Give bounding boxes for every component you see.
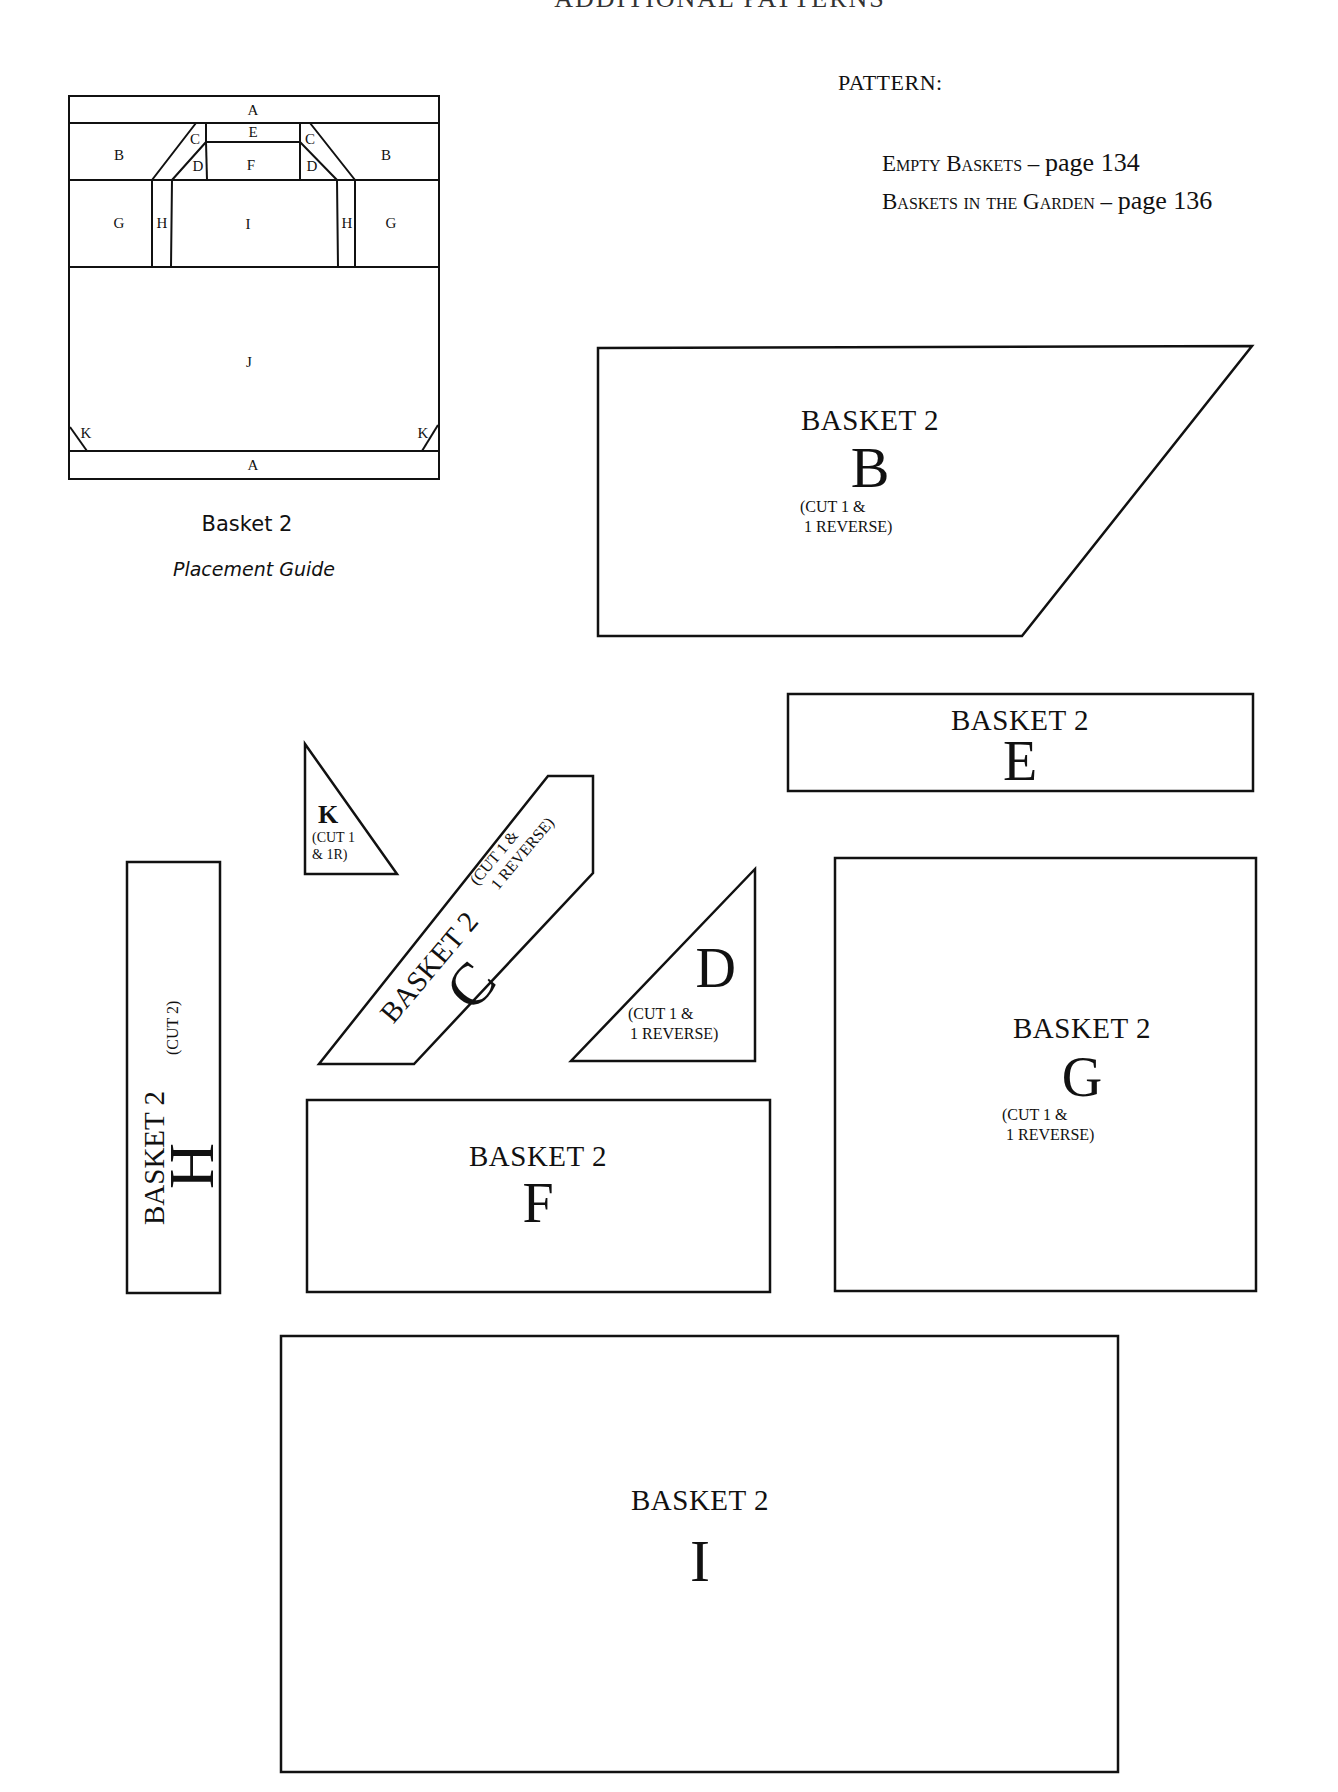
- piece-e: BASKET 2 E: [900, 704, 1140, 789]
- piece-h-note: (CUT 2): [164, 1001, 182, 1055]
- guide-label-a-bottom: A: [241, 457, 265, 474]
- piece-b-title: BASKET 2: [760, 404, 980, 437]
- pattern-link-page: page 136: [1118, 186, 1213, 215]
- piece-f-title: BASKET 2: [418, 1140, 658, 1173]
- guide-label-c-left: C: [183, 131, 207, 148]
- piece-e-letter: E: [900, 733, 1140, 789]
- guide-label-i: I: [236, 216, 260, 233]
- guide-label-g-left: G: [107, 215, 131, 232]
- piece-k-note-2: & 1R): [312, 847, 382, 864]
- pattern-link-page: page 134: [1045, 148, 1140, 177]
- guide-label-e: E: [241, 124, 265, 141]
- guide-label-k-right: K: [411, 425, 435, 442]
- guide-label-k-left: K: [74, 425, 98, 442]
- guide-label-b-left: B: [107, 147, 131, 164]
- pattern-label: PATTERN:: [838, 70, 943, 96]
- guide-label-j: J: [237, 354, 261, 371]
- piece-g-note-1: (CUT 1 &: [1002, 1105, 1202, 1125]
- guide-label-f: F: [239, 157, 263, 174]
- piece-g-title: BASKET 2: [962, 1012, 1202, 1045]
- piece-i-letter: I: [580, 1531, 820, 1591]
- piece-i: BASKET 2 I: [580, 1484, 820, 1591]
- piece-h-letter: H: [160, 1143, 224, 1189]
- piece-d-note-1: (CUT 1 &: [628, 1004, 758, 1024]
- guide-label-g-right: G: [379, 215, 403, 232]
- pattern-link-separator: –: [1022, 151, 1045, 176]
- pattern-link-empty-baskets[interactable]: Empty Baskets – page 134: [882, 148, 1140, 178]
- guide-label-c-right: C: [298, 131, 322, 148]
- placement-guide-subcaption: Placement Guide: [104, 558, 404, 580]
- pattern-link-separator: –: [1095, 189, 1118, 214]
- piece-b: BASKET 2 B (CUT 1 & 1 REVERSE): [760, 404, 980, 537]
- guide-label-h-left: H: [150, 215, 174, 232]
- guide-label-b-right: B: [374, 147, 398, 164]
- piece-b-note-2: 1 REVERSE): [804, 517, 980, 537]
- piece-f: BASKET 2 F: [418, 1140, 658, 1231]
- piece-d-letter: D: [628, 940, 736, 996]
- piece-i-title: BASKET 2: [580, 1484, 820, 1517]
- guide-label-a-top: A: [241, 102, 265, 119]
- piece-g: BASKET 2 G (CUT 1 & 1 REVERSE): [962, 1012, 1202, 1145]
- piece-b-letter: B: [760, 439, 980, 497]
- piece-f-letter: F: [418, 1175, 658, 1231]
- piece-k: K (CUT 1 & 1R): [312, 800, 382, 864]
- piece-b-note-1: (CUT 1 &: [800, 497, 980, 517]
- piece-k-note-1: (CUT 1: [312, 830, 382, 847]
- pattern-link-name: Baskets in the Garden: [882, 189, 1095, 214]
- piece-g-letter: G: [962, 1049, 1202, 1105]
- piece-h: BASKET 2 H (CUT 2): [130, 895, 220, 1255]
- placement-guide-caption: Basket 2: [97, 512, 397, 536]
- pattern-link-baskets-in-the-garden[interactable]: Baskets in the Garden – page 136: [882, 186, 1212, 216]
- pattern-link-name: Empty Baskets: [882, 151, 1022, 176]
- guide-label-d-left: D: [186, 158, 210, 175]
- guide-label-d-right: D: [300, 158, 324, 175]
- piece-k-letter: K: [318, 800, 382, 830]
- piece-d-note-2: 1 REVERSE): [630, 1024, 758, 1044]
- piece-g-note-2: 1 REVERSE): [1006, 1125, 1202, 1145]
- guide-label-h-right: H: [335, 215, 359, 232]
- piece-d: D (CUT 1 & 1 REVERSE): [628, 940, 758, 1044]
